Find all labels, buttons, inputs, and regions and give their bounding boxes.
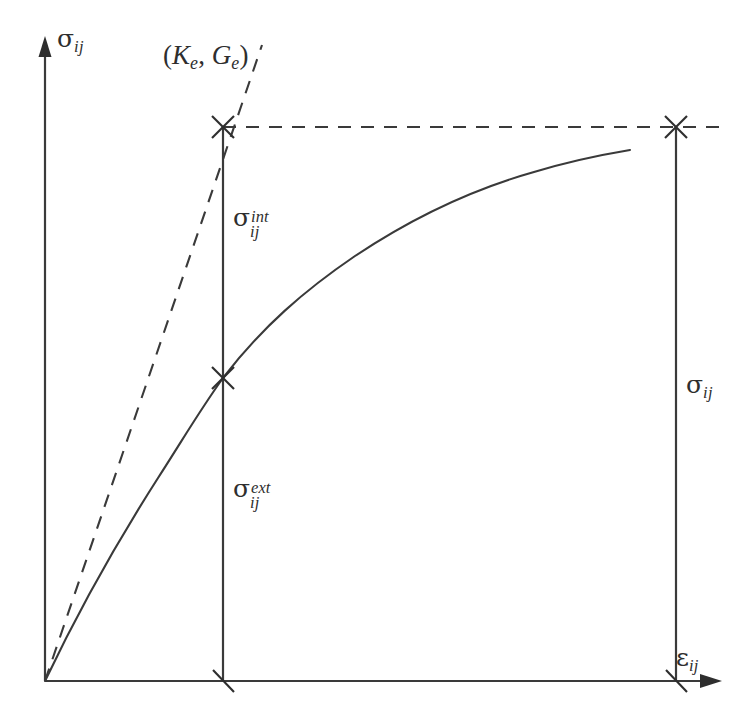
paren-close: ) — [240, 40, 249, 70]
shear-modulus-subscript: e — [231, 53, 239, 73]
moduli-separator: , — [198, 40, 212, 70]
bulk-modulus-symbol: K — [172, 40, 190, 70]
diagram-canvas — [0, 0, 750, 719]
external-stress-label: σextij — [233, 476, 250, 501]
total-stress-subscript: ij — [703, 383, 713, 402]
elastic-moduli-label: (Ke, Ge) — [163, 42, 249, 73]
y-axis-label-subscript: ij — [74, 37, 84, 56]
x-axis-arrowhead — [700, 674, 722, 688]
shear-modulus-symbol: G — [212, 40, 232, 70]
internal-stress-subscript: ij — [250, 224, 259, 241]
stress-strain-curve — [45, 150, 630, 681]
axes-group — [39, 36, 723, 688]
paren-open: ( — [163, 40, 172, 70]
stress-strain-diagram: σij εij (Ke, Ge) σintij σextij σij — [0, 0, 750, 719]
internal-stress-label: σintij — [233, 205, 250, 230]
y-axis-label: σij — [57, 26, 84, 55]
x-axis-label-subscript: ij — [689, 656, 699, 675]
external-stress-subscript: ij — [250, 495, 259, 512]
total-stress-label: σij — [686, 372, 713, 401]
elastic-tangent-dashed-line — [45, 45, 262, 681]
y-axis-arrowhead — [39, 36, 52, 57]
x-axis-label: εij — [676, 645, 699, 674]
